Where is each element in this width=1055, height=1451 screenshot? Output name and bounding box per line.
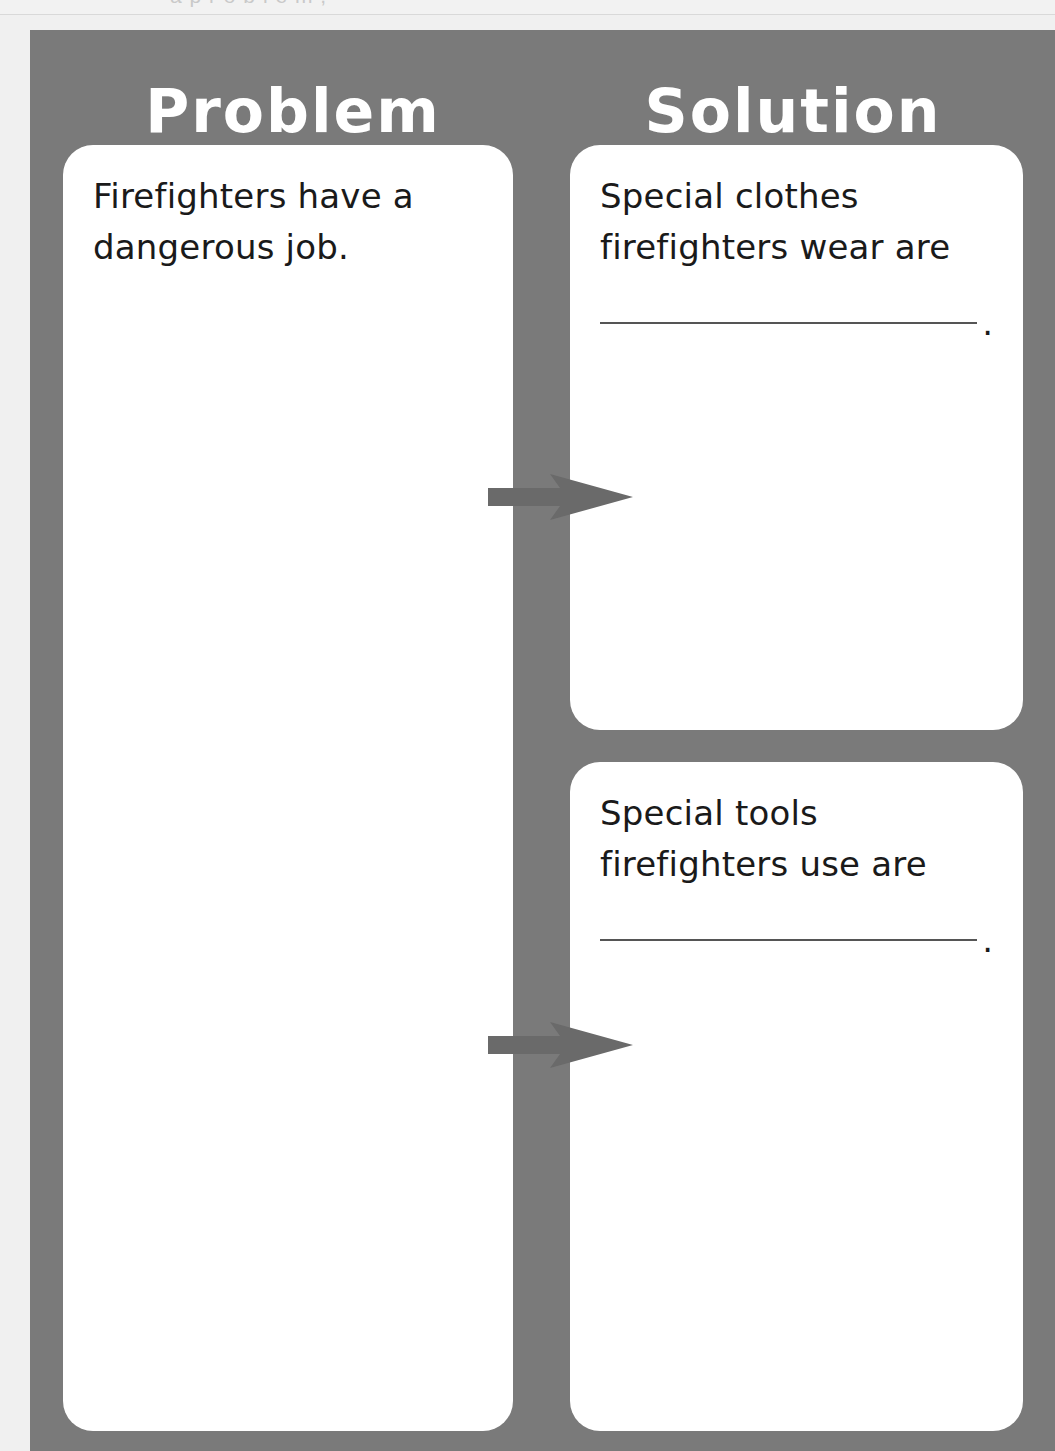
solution-card-1-period: .: [977, 313, 993, 333]
solution-card-1-text: Special clothes firefighters wear are: [600, 171, 993, 273]
solution-card-2-text: Special tools firefighters use are: [600, 788, 993, 890]
solution-card-1-blank-line[interactable]: [600, 322, 977, 324]
bleed-text: a p r o b l e m ,: [170, 0, 327, 8]
solution-card-1-blank-row: .: [600, 313, 993, 333]
problem-card[interactable]: Firefighters have a dangerous job.: [63, 145, 513, 1431]
problem-card-text: Firefighters have a dangerous job.: [93, 171, 483, 273]
column-heading-problem: Problem: [63, 76, 523, 146]
solution-card-1[interactable]: Special clothes firefighters wear are .: [570, 145, 1023, 730]
page-divider-line: [0, 14, 1055, 15]
graphic-organizer-panel: Problem Solution Firefighters have a dan…: [30, 30, 1055, 1451]
page-top-bleed: a p r o b l e m ,: [0, 0, 1055, 14]
solution-card-2-period: .: [977, 930, 993, 950]
arrow-right-icon-2: [488, 1022, 633, 1068]
solution-card-2-blank-row: .: [600, 930, 993, 950]
column-heading-solution: Solution: [563, 76, 1023, 146]
solution-card-2-blank-line[interactable]: [600, 939, 977, 941]
worksheet-page: a p r o b l e m , Problem Solution Firef…: [0, 0, 1055, 1451]
solution-card-2[interactable]: Special tools firefighters use are .: [570, 762, 1023, 1431]
arrow-right-icon-1: [488, 474, 633, 520]
